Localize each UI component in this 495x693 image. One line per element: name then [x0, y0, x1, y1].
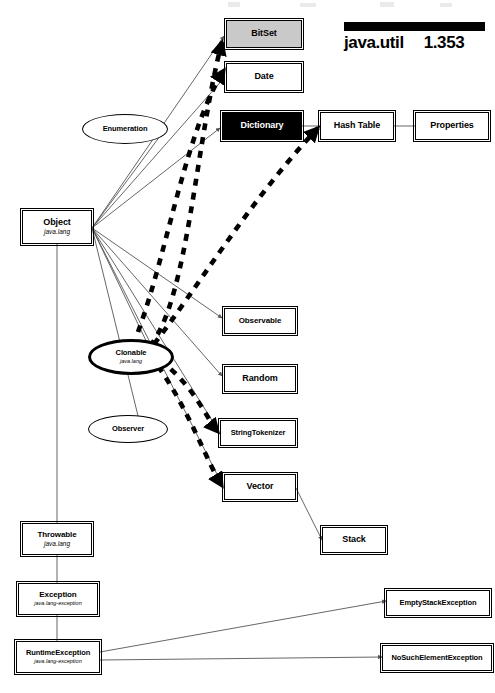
class-name: Object	[43, 218, 70, 227]
class-node-bitset[interactable]: BitSet	[226, 20, 302, 48]
class-node-object[interactable]: Object java.lang	[22, 210, 92, 244]
class-node-hashtable[interactable]: Hash Table	[320, 112, 394, 140]
class-node-date[interactable]: Date	[226, 63, 302, 91]
class-name: Date	[254, 72, 273, 81]
class-name: RuntimeException	[26, 649, 90, 657]
header-rule	[344, 22, 485, 31]
class-node-observable[interactable]: Observable	[224, 308, 296, 334]
edge-object-date	[92, 78, 224, 228]
edge-runtimeexception-nosuchelement	[100, 657, 382, 660]
class-node-exception[interactable]: Exception java.lang-exception	[18, 583, 98, 615]
edge-clonable-vector	[158, 366, 222, 486]
interface-name: Clonable	[116, 349, 147, 357]
interface-node-observer[interactable]: Observer	[88, 415, 168, 443]
scan-artifact	[228, 2, 240, 7]
edge-vector-stack	[296, 488, 322, 540]
class-name: Hash Table	[334, 121, 380, 130]
edge-clonable-date	[138, 70, 224, 332]
edge-object-clonable	[92, 228, 150, 349]
class-node-nosuchelementexception[interactable]: NoSuchElementException	[382, 645, 492, 671]
edge-clonable-stringtokenizer	[160, 360, 218, 432]
class-name: EmptyStackException	[400, 599, 477, 607]
class-name: Dictionary	[240, 121, 283, 130]
scan-artifact	[300, 3, 316, 7]
edge-clonable-bitset	[150, 42, 222, 346]
class-node-properties[interactable]: Properties	[415, 112, 489, 140]
interface-name: Observer	[112, 425, 144, 433]
class-name: Properties	[430, 121, 474, 130]
class-name: Random	[242, 374, 277, 383]
class-name: Exception	[39, 591, 76, 599]
edge-runtimeexception-emptystack	[100, 601, 386, 652]
class-diagram-canvas: java.util 1.353 BitSet Date Dictionary H…	[0, 0, 495, 693]
class-node-random[interactable]: Random	[224, 366, 296, 392]
edge-object-stringtokenizer	[92, 228, 218, 430]
interface-package: java.lang	[120, 359, 142, 365]
class-node-vector[interactable]: Vector	[224, 474, 296, 500]
edge-object-observable	[92, 228, 222, 318]
scan-artifact	[380, 2, 394, 7]
class-package: java.lang	[44, 229, 70, 236]
class-node-stringtokenizer[interactable]: StringTokenizer	[220, 420, 296, 446]
page-number: 1.353	[424, 33, 465, 53]
package-name: java.util	[344, 33, 404, 53]
interface-name: Enumeration	[103, 125, 148, 133]
class-node-runtimeexception[interactable]: RuntimeException java.lang-exception	[16, 641, 100, 673]
class-package: java.lang-exception	[34, 601, 81, 607]
class-name: Stack	[342, 535, 366, 544]
class-node-throwable[interactable]: Throwable java.lang	[22, 523, 92, 555]
edge-object-observer	[92, 228, 140, 424]
class-name: BitSet	[251, 29, 276, 38]
class-name: Observable	[239, 317, 282, 325]
class-name: NoSuchElementException	[391, 654, 482, 662]
class-package: java.lang-exception	[34, 659, 81, 665]
class-package: java.lang	[44, 541, 70, 548]
page-header: java.util 1.353	[344, 22, 485, 53]
interface-node-enumeration[interactable]: Enumeration	[82, 114, 168, 144]
connector-edges-arrow	[100, 488, 386, 660]
class-node-stack[interactable]: Stack	[322, 527, 386, 553]
interface-node-clonable[interactable]: Clonable java.lang	[88, 339, 174, 375]
class-name: Throwable	[37, 531, 76, 539]
class-node-dictionary[interactable]: Dictionary	[222, 112, 302, 140]
class-name: Vector	[247, 482, 274, 491]
class-name: StringTokenizer	[231, 429, 286, 437]
scan-artifact	[440, 3, 452, 7]
class-node-emptystackexception[interactable]: EmptyStackException	[386, 590, 490, 616]
